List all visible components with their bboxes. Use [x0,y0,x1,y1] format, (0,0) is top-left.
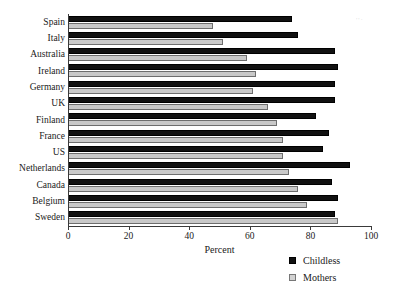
bar-group [68,47,371,63]
bar-group [68,128,371,144]
bar-mothers-sweden [68,218,338,224]
y-tick-label-us: US [53,147,65,157]
bar-group [68,30,371,46]
bar-mothers-netherlands [68,169,289,175]
bar-mothers-france [68,137,283,143]
bar-childless-belgium [68,195,338,201]
y-tick-label-canada: Canada [37,180,66,190]
x-tick-mark-0 [68,227,69,230]
y-tick-label-australia: Australia [30,49,65,59]
x-tick-label-100: 100 [356,231,386,242]
x-tick-mark-80 [310,227,311,230]
bar-childless-australia [68,48,335,54]
bar-childless-finland [68,113,316,119]
black-square-icon [289,257,296,264]
plot-area [68,14,371,226]
bar-mothers-italy [68,39,223,45]
bar-group [68,161,371,177]
bar-group [68,63,371,79]
bar-group [68,193,371,209]
bar-childless-canada [68,179,332,185]
bar-mothers-us [68,153,283,159]
y-tick-label-france: France [39,131,65,141]
y-tick-label-germany: Germany [30,82,65,92]
bar-mothers-australia [68,55,247,61]
x-tick-label-0: 0 [53,231,83,242]
bar-mothers-spain [68,23,213,29]
bar-childless-germany [68,81,335,87]
y-tick-label-finland: Finland [36,115,65,125]
bar-childless-spain [68,16,292,22]
bar-group [68,144,371,160]
bar-group [68,79,371,95]
bar-chart: ''· SpainItalyAustraliaIrelandGermanyUKF… [0,0,399,294]
bar-mothers-ireland [68,71,256,77]
y-tick-label-belgium: Belgium [32,196,65,206]
y-tick-label-ireland: Ireland [38,66,65,76]
bar-childless-france [68,130,329,136]
y-tick-label-italy: Italy [48,33,65,43]
bar-mothers-finland [68,120,277,126]
x-tick-mark-100 [371,227,372,230]
x-tick-mark-40 [189,227,190,230]
y-tick-label-netherlands: Netherlands [19,163,65,173]
x-tick-label-20: 20 [114,231,144,242]
bar-childless-netherlands [68,162,350,168]
y-tick-label-spain: Spain [43,17,65,27]
x-tick-mark-60 [250,227,251,230]
bar-childless-us [68,146,323,152]
bar-group [68,14,371,30]
legend-label-childless: Childless [303,254,340,267]
bar-mothers-uk [68,104,268,110]
y-tick-label-sweden: Sweden [35,212,65,222]
x-tick-label-80: 80 [295,231,325,242]
bar-mothers-germany [68,88,253,94]
y-axis-line [68,14,69,227]
x-tick-label-40: 40 [174,231,204,242]
x-tick-label-60: 60 [235,231,265,242]
bar-mothers-belgium [68,202,307,208]
bar-childless-uk [68,97,335,103]
bar-mothers-canada [68,186,298,192]
bar-group [68,96,371,112]
x-axis-line [68,226,372,227]
bar-group [68,210,371,226]
bar-group [68,177,371,193]
y-tick-label-uk: UK [51,98,65,108]
x-tick-mark-20 [129,227,130,230]
grey-square-icon [289,274,296,281]
bar-childless-italy [68,32,298,38]
bar-childless-ireland [68,64,338,70]
legend-label-mothers: Mothers [303,271,336,284]
bar-childless-sweden [68,211,335,217]
bar-group [68,112,371,128]
